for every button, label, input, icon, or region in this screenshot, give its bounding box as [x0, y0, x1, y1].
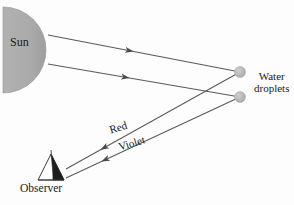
sunray-lower — [48, 64, 240, 97]
violet-ray — [66, 97, 240, 178]
diagram-canvas — [0, 0, 294, 205]
water-droplet-upper — [235, 67, 246, 78]
observer-label: Observer — [20, 182, 62, 195]
red-ray — [66, 72, 240, 169]
water-droplet-lower — [235, 92, 246, 103]
observer-figure — [38, 150, 64, 180]
water-droplets-label-line1: Water — [254, 70, 289, 82]
water-droplets-label-line2: droplets — [254, 82, 289, 94]
sun-label: Sun — [10, 36, 29, 49]
rainbow-formation-diagram: Sun Water droplets Observer Red Violet — [0, 0, 294, 205]
water-droplets-label: Water droplets — [254, 70, 289, 95]
sun-semicircle — [3, 7, 46, 93]
sunray-upper — [48, 35, 240, 72]
